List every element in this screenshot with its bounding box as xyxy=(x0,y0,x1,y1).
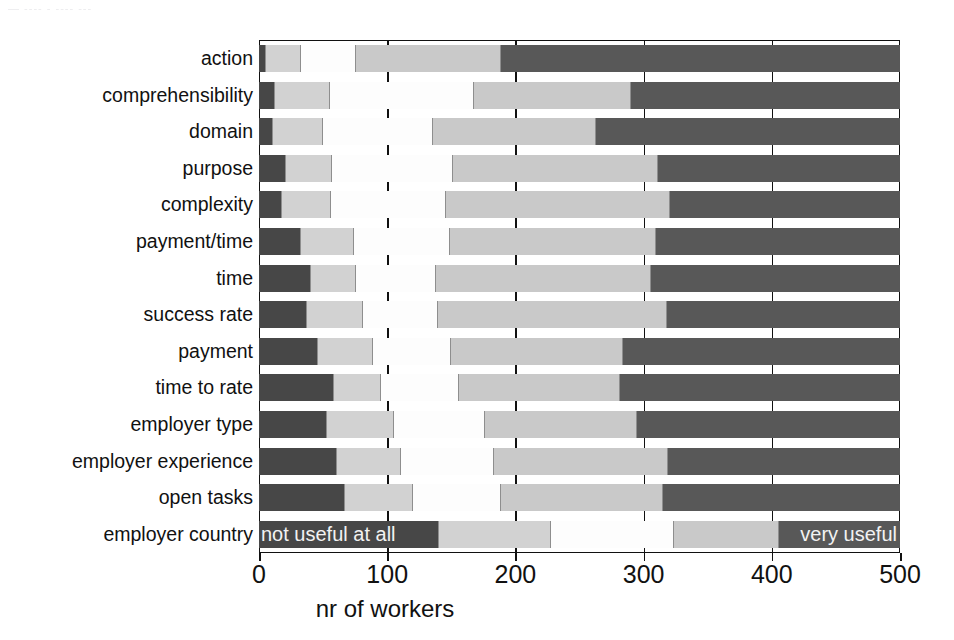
bar-segment-4[interactable] xyxy=(670,191,899,218)
y-axis-label-time: time xyxy=(216,265,253,292)
bar-segment-2[interactable] xyxy=(301,45,356,72)
bar-segment-3[interactable] xyxy=(450,228,656,255)
bar-segment-0[interactable] xyxy=(259,82,274,109)
bar-segment-1[interactable] xyxy=(272,118,323,145)
stacked-bar[interactable] xyxy=(259,374,900,401)
bar-segment-1[interactable] xyxy=(300,228,354,255)
bar-segment-4[interactable] xyxy=(631,82,900,109)
bar-segment-2[interactable] xyxy=(394,411,485,438)
bar-segment-1[interactable] xyxy=(326,411,394,438)
bar-row xyxy=(259,448,900,475)
bar-segment-4[interactable] xyxy=(668,448,900,475)
x-tick-label-200: 200 xyxy=(495,560,537,589)
bar-segment-3[interactable] xyxy=(501,484,663,511)
bar-segment-0[interactable] xyxy=(259,301,306,328)
bar-segment-1[interactable] xyxy=(285,155,332,182)
bar-segment-4[interactable] xyxy=(651,265,900,292)
stacked-bar[interactable] xyxy=(259,45,900,72)
bar-row: not useful at allvery useful xyxy=(259,521,900,548)
y-axis-label-employer-experience: employer experience xyxy=(72,448,253,475)
bar-segment-3[interactable] xyxy=(433,118,596,145)
bar-segment-0[interactable] xyxy=(259,484,344,511)
y-axis-label-purpose: purpose xyxy=(183,155,253,182)
bar-segment-4[interactable] xyxy=(667,301,900,328)
bar-segment-3[interactable] xyxy=(356,45,501,72)
bar-segment-1[interactable] xyxy=(310,265,356,292)
bar-segment-0[interactable] xyxy=(259,228,300,255)
stacked-bar[interactable]: not useful at allvery useful xyxy=(259,521,900,548)
bar-segment-4[interactable] xyxy=(620,374,899,401)
bar-segment-3[interactable] xyxy=(438,301,666,328)
bar-segment-1[interactable] xyxy=(274,82,329,109)
bar-segment-0[interactable] xyxy=(259,521,438,548)
bar-segment-3[interactable] xyxy=(459,374,621,401)
bar-segment-2[interactable] xyxy=(551,521,674,548)
bar-segment-1[interactable] xyxy=(344,484,413,511)
bar-segment-2[interactable] xyxy=(332,155,453,182)
bar-segment-4[interactable] xyxy=(779,521,900,548)
x-axis-title: nr of workers xyxy=(0,595,954,623)
plot-area: not useful at allvery useful xyxy=(259,40,900,553)
bar-segment-2[interactable] xyxy=(323,118,433,145)
stacked-bar[interactable] xyxy=(259,411,900,438)
bar-segment-0[interactable] xyxy=(259,374,333,401)
bar-segment-3[interactable] xyxy=(485,411,638,438)
bar-segment-2[interactable] xyxy=(354,228,450,255)
bar-segment-2[interactable] xyxy=(330,82,475,109)
bar-segment-3[interactable] xyxy=(474,82,630,109)
bar-segment-1[interactable] xyxy=(336,448,401,475)
y-axis-label-domain: domain xyxy=(189,118,253,145)
bar-row xyxy=(259,155,900,182)
y-axis-label-complexity: complexity xyxy=(161,191,253,218)
bar-segment-3[interactable] xyxy=(494,448,668,475)
bar-segment-3[interactable] xyxy=(453,155,658,182)
bar-segment-0[interactable] xyxy=(259,155,285,182)
bar-segment-1[interactable] xyxy=(333,374,380,401)
bar-segment-1[interactable] xyxy=(306,301,362,328)
bar-segment-2[interactable] xyxy=(363,301,439,328)
stacked-bar[interactable] xyxy=(259,118,900,145)
bar-segment-1[interactable] xyxy=(281,191,331,218)
bar-segment-3[interactable] xyxy=(436,265,651,292)
bar-segment-0[interactable] xyxy=(259,448,336,475)
bar-segment-3[interactable] xyxy=(674,521,779,548)
bar-segment-3[interactable] xyxy=(451,338,623,365)
bar-segment-1[interactable] xyxy=(438,521,551,548)
bar-segment-2[interactable] xyxy=(381,374,459,401)
bar-segment-4[interactable] xyxy=(501,45,900,72)
bar-segment-4[interactable] xyxy=(596,118,900,145)
bar-segment-2[interactable] xyxy=(401,448,493,475)
scan-artifact: — ---- - ---- --- xyxy=(8,2,240,13)
bar-segment-4[interactable] xyxy=(623,338,900,365)
stacked-bar[interactable] xyxy=(259,228,900,255)
y-axis-label-employer-type: employer type xyxy=(131,411,253,438)
bar-segment-4[interactable] xyxy=(658,155,900,182)
y-axis-label-success-rate: success rate xyxy=(144,301,253,328)
bar-segment-2[interactable] xyxy=(331,191,446,218)
bar-segment-3[interactable] xyxy=(446,191,670,218)
bar-segment-2[interactable] xyxy=(356,265,435,292)
stacked-bar[interactable] xyxy=(259,338,900,365)
stacked-bar[interactable] xyxy=(259,448,900,475)
stacked-bar[interactable] xyxy=(259,82,900,109)
bar-segment-0[interactable] xyxy=(259,118,272,145)
x-tick-label-300: 300 xyxy=(623,560,665,589)
bar-segment-1[interactable] xyxy=(265,45,301,72)
stacked-bar[interactable] xyxy=(259,484,900,511)
bar-segment-0[interactable] xyxy=(259,191,281,218)
bar-segment-4[interactable] xyxy=(656,228,900,255)
bar-segment-2[interactable] xyxy=(373,338,451,365)
bar-segment-1[interactable] xyxy=(317,338,373,365)
bar-segment-0[interactable] xyxy=(259,411,326,438)
bar-segment-0[interactable] xyxy=(259,265,310,292)
bar-row xyxy=(259,118,900,145)
stacked-bar[interactable] xyxy=(259,191,900,218)
x-tick-label-400: 400 xyxy=(751,560,793,589)
bar-segment-0[interactable] xyxy=(259,338,317,365)
stacked-bar[interactable] xyxy=(259,155,900,182)
stacked-bar[interactable] xyxy=(259,301,900,328)
bar-segment-4[interactable] xyxy=(663,484,900,511)
stacked-bar[interactable] xyxy=(259,265,900,292)
bar-segment-2[interactable] xyxy=(413,484,501,511)
bar-segment-4[interactable] xyxy=(637,411,900,438)
